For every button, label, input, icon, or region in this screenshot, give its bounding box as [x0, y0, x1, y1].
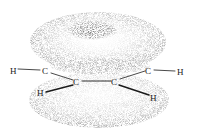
atom-c3: C — [111, 77, 117, 87]
top-orbital-lobe — [30, 12, 166, 74]
atom-c2: C — [73, 77, 79, 87]
bond-c4-h2 — [154, 70, 175, 71]
atom-h1: H — [10, 66, 17, 76]
bottom-orbital-lobe — [29, 72, 169, 128]
atom-h2: H — [177, 67, 184, 77]
orbital-diagram: H C C C C H H H — [0, 0, 197, 134]
atom-h4: H — [150, 93, 157, 103]
atom-h3: H — [37, 88, 44, 98]
atom-c1: C — [42, 66, 48, 76]
atom-c4: C — [145, 66, 151, 76]
bond-h1-c1 — [18, 69, 40, 70]
